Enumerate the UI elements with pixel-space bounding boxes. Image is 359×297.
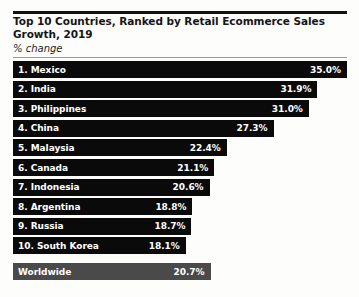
bar-country: 8. Argentina18.8% — [13, 198, 192, 215]
bar-row: 4. China27.3% — [13, 120, 274, 137]
bar-row: 2. India31.9% — [13, 81, 317, 98]
chart-subtitle: % change — [13, 42, 353, 55]
bar-row: 9. Russia18.7% — [13, 218, 191, 235]
bar-country: 3. Philippines31.0% — [13, 100, 309, 117]
bar-country: 7. Indonesia20.6% — [13, 179, 210, 196]
bar-value-label: 27.3% — [237, 123, 268, 133]
bar-country: 5. Malaysia22.4% — [13, 139, 227, 156]
bar-value-label: 20.7% — [174, 267, 205, 277]
bar-value-label: 22.4% — [190, 143, 221, 153]
bar-worldwide: Worldwide20.7% — [13, 263, 211, 280]
bar-category-label: 1. Mexico — [18, 65, 66, 75]
bar-chart-plot: 1. Mexico35.0%2. India31.9%3. Philippine… — [13, 61, 347, 285]
bar-value-label: 18.8% — [155, 202, 186, 212]
chart-header: Top 10 Countries, Ranked by Retail Ecomm… — [13, 15, 353, 55]
bar-category-label: 3. Philippines — [18, 104, 86, 114]
bar-value-label: 18.1% — [149, 241, 180, 251]
top-rule-divider — [13, 11, 347, 14]
bar-category-label: 8. Argentina — [18, 202, 80, 212]
bar-country: 1. Mexico35.0% — [13, 61, 347, 78]
bar-country: 6. Canada21.1% — [13, 159, 214, 176]
bar-country: 2. India31.9% — [13, 81, 317, 98]
bar-row: 5. Malaysia22.4% — [13, 139, 227, 156]
chart-card: Top 10 Countries, Ranked by Retail Ecomm… — [0, 0, 359, 297]
bar-value-label: 20.6% — [173, 182, 204, 192]
bar-row: 3. Philippines31.0% — [13, 100, 309, 117]
bar-category-label: 5. Malaysia — [18, 143, 75, 153]
bar-row: 7. Indonesia20.6% — [13, 179, 210, 196]
bar-row: 8. Argentina18.8% — [13, 198, 192, 215]
bar-row: Worldwide20.7% — [13, 263, 211, 280]
bar-row: 1. Mexico35.0% — [13, 61, 347, 78]
bar-row: 6. Canada21.1% — [13, 159, 214, 176]
header-divider — [13, 57, 347, 58]
chart-title: Top 10 Countries, Ranked by Retail Ecomm… — [13, 15, 335, 41]
bar-category-label: 2. India — [18, 84, 56, 94]
bar-category-label: 9. Russia — [18, 221, 64, 231]
bar-category-label: 10. South Korea — [18, 241, 99, 251]
bar-value-label: 18.7% — [154, 221, 185, 231]
bar-country: 4. China27.3% — [13, 120, 274, 137]
bar-category-label: Worldwide — [18, 267, 71, 277]
bar-country: 10. South Korea18.1% — [13, 237, 186, 254]
bar-category-label: 7. Indonesia — [18, 182, 80, 192]
bar-row: 10. South Korea18.1% — [13, 237, 186, 254]
bar-category-label: 6. Canada — [18, 163, 68, 173]
bar-value-label: 21.1% — [177, 163, 208, 173]
bar-category-label: 4. China — [18, 123, 59, 133]
bar-value-label: 31.0% — [272, 104, 303, 114]
bar-value-label: 31.9% — [280, 84, 311, 94]
bar-country: 9. Russia18.7% — [13, 218, 191, 235]
bar-value-label: 35.0% — [310, 65, 341, 75]
